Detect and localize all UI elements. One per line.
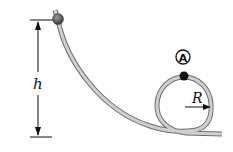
height-dimension: h [30,20,58,137]
arrowhead-down-icon [35,127,41,136]
point-a-marker [180,72,189,81]
ball-icon [53,14,64,25]
point-a-label: A [179,52,188,65]
track-fill [55,10,222,134]
arrowhead-up-icon [35,21,41,30]
height-label: h [33,75,43,93]
loop-track-diagram: h A R [0,0,233,152]
track [55,10,222,134]
radius-label: R [191,90,203,106]
